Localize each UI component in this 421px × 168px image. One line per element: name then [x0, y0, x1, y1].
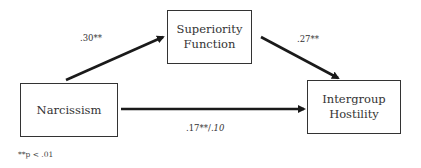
significance-footnote: **p < .01	[18, 150, 53, 159]
path-c-direct-effect: .10	[211, 123, 225, 133]
node-narcissism-label: Narcissism	[37, 103, 102, 118]
path-a-coefficient: .30**	[80, 33, 102, 43]
node-superiority-label-line1: Superiority	[177, 22, 243, 37]
node-superiority-function: Superiority Function	[167, 10, 252, 64]
node-superiority-label-line2: Function	[184, 37, 236, 52]
arrow-narcissism-to-superiority	[66, 37, 163, 80]
node-hostility-label-line1: Intergroup	[322, 92, 385, 107]
path-b-coefficient: .27**	[297, 34, 319, 44]
path-c-total-effect: .17**/	[186, 123, 211, 133]
path-c-coefficient: .17**/.10	[186, 123, 224, 133]
node-hostility-label-line2: Hostility	[329, 107, 379, 122]
node-intergroup-hostility: Intergroup Hostility	[307, 80, 401, 134]
node-narcissism: Narcissism	[20, 83, 118, 137]
